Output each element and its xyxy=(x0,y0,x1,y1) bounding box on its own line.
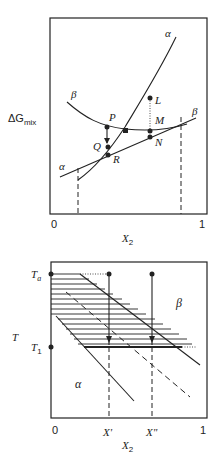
start-point-X1 xyxy=(107,272,112,277)
temperature-composition-plot: Ta T1 T β α 0 1 X' X" X2 xyxy=(12,262,207,454)
label-X-prime: X' xyxy=(102,426,113,438)
top-plot-frame xyxy=(50,18,207,214)
dashed-boundary xyxy=(66,292,190,397)
label-Q: Q xyxy=(93,140,101,152)
point-M xyxy=(148,129,153,134)
x-axis-label-top: X2 xyxy=(121,232,134,247)
label-M: M xyxy=(154,114,165,126)
free-energy-plot: P Q R L M N α β α β ΔGmix 0 1 X2 xyxy=(8,18,207,247)
label-T1: T1 xyxy=(31,341,42,356)
phase-diagram-figure: P Q R L M N α β α β ΔGmix 0 1 X2 xyxy=(0,0,223,465)
label-N: N xyxy=(154,136,163,148)
arrowhead-icon xyxy=(106,336,112,343)
label-Ta: Ta xyxy=(31,268,41,283)
x-tick-1: 1 xyxy=(199,218,205,230)
y-axis-label-T: T xyxy=(12,331,19,343)
common-tangent-line xyxy=(60,118,196,177)
point-T1 xyxy=(49,345,54,350)
start-point-X2 xyxy=(150,272,155,277)
y-axis-label: ΔGmix xyxy=(8,112,36,127)
label-alpha-region: α xyxy=(75,377,82,391)
point-R xyxy=(106,153,111,158)
point-Ta xyxy=(49,272,54,277)
label-L: L xyxy=(154,94,161,106)
alpha-curve xyxy=(78,37,176,180)
label-P: P xyxy=(108,111,116,123)
label-X-double-prime: X" xyxy=(145,426,158,438)
label-beta-region: β xyxy=(175,296,182,310)
x-tick-0: 0 xyxy=(51,218,57,230)
label-alpha-left: α xyxy=(59,160,65,172)
arrowhead-icon xyxy=(104,138,110,144)
x-tick-0-bottom: 0 xyxy=(52,424,58,436)
point-L xyxy=(148,96,153,101)
bottom-plot-frame xyxy=(51,262,207,418)
label-beta-left: β xyxy=(70,88,77,100)
point-N xyxy=(148,135,153,140)
intersection-marker xyxy=(123,128,128,133)
x-tick-1-bottom: 1 xyxy=(200,424,206,436)
label-alpha-top: α xyxy=(165,27,171,39)
arrowhead-icon xyxy=(149,336,155,343)
beta-curve xyxy=(67,102,187,130)
point-Q xyxy=(106,145,111,150)
x-axis-label-bottom: X2 xyxy=(121,439,134,454)
point-P xyxy=(105,125,110,130)
label-beta-right: β xyxy=(191,105,198,117)
label-R: R xyxy=(112,153,120,165)
